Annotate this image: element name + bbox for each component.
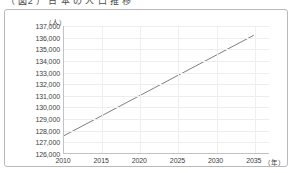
y-gridline — [64, 84, 269, 85]
plot-area — [63, 26, 269, 154]
y-gridline — [64, 131, 269, 132]
y-axis-tick-label: 130,000 — [35, 104, 60, 111]
x-gridline — [255, 26, 256, 153]
y-axis-tick-label: 127,000 — [35, 139, 60, 146]
y-gridline — [64, 26, 269, 27]
y-gridline — [64, 142, 269, 143]
x-axis-tick-label: 2020 — [132, 157, 147, 164]
y-axis-tick-label: 134,000 — [35, 57, 60, 64]
y-gridline — [64, 73, 269, 74]
x-axis-unit-label: （年） — [264, 157, 285, 167]
page-title: （ 図2 ） 日 本 の 人 口 推 移 — [6, 0, 132, 7]
y-axis-tick-label: 136,000 — [35, 34, 60, 41]
y-axis-tick-label: 131,000 — [35, 92, 60, 99]
x-gridline — [102, 26, 103, 153]
x-gridline — [140, 26, 141, 153]
x-axis-tick-label: 2035 — [246, 157, 261, 164]
y-axis-tick-label: 132,000 — [35, 81, 60, 88]
x-axis-tick-label: 2015 — [94, 157, 109, 164]
y-axis-tick-label: 133,000 — [35, 69, 60, 76]
y-axis-tick-label: 135,000 — [35, 46, 60, 53]
x-axis-tick-label: 2030 — [208, 157, 223, 164]
y-gridline — [64, 61, 269, 62]
y-gridline — [64, 119, 269, 120]
x-axis-tick-label: 2025 — [170, 157, 185, 164]
figure-title-strip: （ 図2 ） 日 本 の 人 口 推 移 — [0, 0, 294, 9]
y-axis-tick-label: 137,000 — [35, 23, 60, 30]
y-gridline — [64, 107, 269, 108]
y-gridline — [64, 49, 269, 50]
figure-frame: （人） （年） 126,000127,000128,000129,000130,… — [4, 9, 288, 167]
y-gridline — [64, 96, 269, 97]
y-gridline — [64, 38, 269, 39]
x-gridline — [217, 26, 218, 153]
series-line-population — [64, 26, 269, 153]
x-gridline — [178, 26, 179, 153]
chart-figure: （ 図2 ） 日 本 の 人 口 推 移 （人） （年） 126,000127,… — [0, 0, 294, 173]
x-axis-tick-label: 2010 — [55, 157, 70, 164]
y-axis-tick-label: 128,000 — [35, 127, 60, 134]
y-axis-tick-label: 129,000 — [35, 116, 60, 123]
